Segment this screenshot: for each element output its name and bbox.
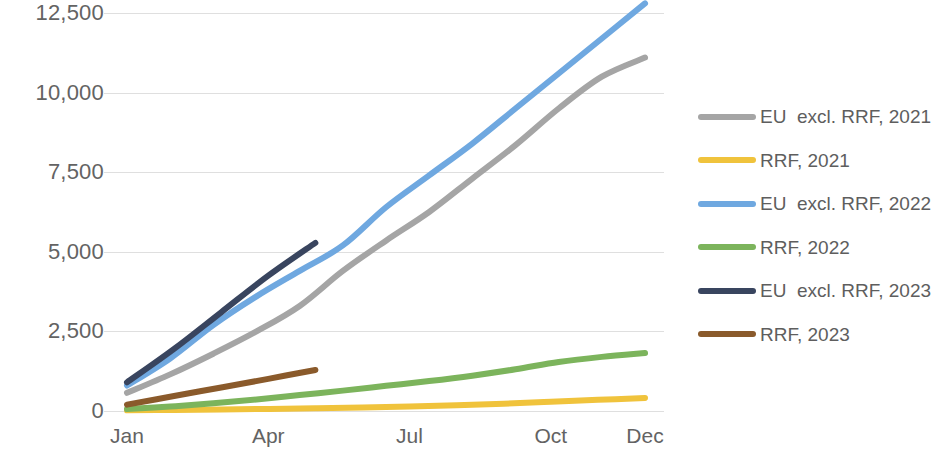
series-line — [127, 370, 315, 405]
legend-label: EU excl. RRF, 2022 — [760, 194, 931, 213]
legend-label: EU excl. RRF, 2023 — [760, 281, 931, 300]
y-tick-label: 2,500 — [0, 318, 104, 344]
chart-legend: EU excl. RRF, 2021RRF, 2021EU excl. RRF,… — [698, 95, 945, 356]
legend-label: RRF, 2022 — [760, 238, 850, 257]
x-tick-label: Oct — [534, 424, 567, 448]
line-chart: 02,5005,0007,50010,00012,500 JanAprJulOc… — [0, 0, 945, 451]
series-line — [127, 58, 645, 393]
y-tick-label: 10,000 — [0, 80, 104, 106]
legend-swatch-icon — [698, 114, 756, 120]
legend-item[interactable]: RRF, 2023 — [698, 313, 945, 357]
x-tick-label: Apr — [252, 424, 285, 448]
x-tick-label: Jul — [396, 424, 423, 448]
legend-item[interactable]: EU excl. RRF, 2022 — [698, 182, 945, 226]
y-tick-label: 5,000 — [0, 239, 104, 265]
legend-item[interactable]: RRF, 2022 — [698, 226, 945, 270]
x-tick-label: Dec — [626, 424, 663, 448]
y-tick-label: 12,500 — [0, 0, 104, 26]
legend-swatch-icon — [698, 244, 756, 250]
legend-swatch-icon — [698, 201, 756, 207]
legend-item[interactable]: EU excl. RRF, 2021 — [698, 95, 945, 139]
y-tick-label: 7,500 — [0, 159, 104, 185]
legend-swatch-icon — [698, 331, 756, 337]
legend-swatch-icon — [698, 288, 756, 294]
y-axis: 02,5005,0007,50010,00012,500 — [0, 0, 104, 451]
legend-item[interactable]: EU excl. RRF, 2023 — [698, 269, 945, 313]
x-tick-label: Jan — [110, 424, 144, 448]
plot-area — [104, 0, 664, 420]
series-layer — [104, 0, 664, 420]
legend-item[interactable]: RRF, 2021 — [698, 139, 945, 183]
y-tick-label: 0 — [0, 398, 104, 424]
legend-label: RRF, 2023 — [760, 325, 850, 344]
legend-label: RRF, 2021 — [760, 151, 850, 170]
x-axis: JanAprJulOctDec — [104, 420, 664, 451]
legend-swatch-icon — [698, 157, 756, 163]
legend-label: EU excl. RRF, 2021 — [760, 107, 931, 126]
